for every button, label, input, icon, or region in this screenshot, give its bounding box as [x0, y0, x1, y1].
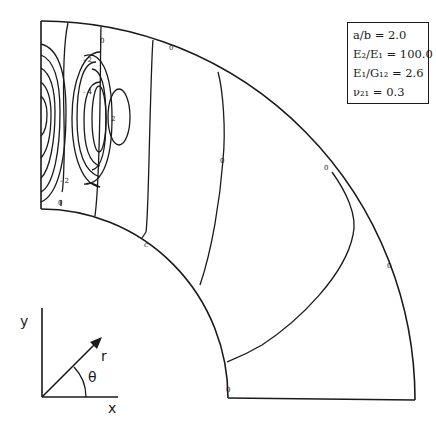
y-axis-label: y — [20, 313, 28, 329]
contour-zero-3 — [200, 72, 224, 285]
contour-zero-left — [62, 23, 68, 192]
label-0-inner: c — [144, 241, 148, 249]
label-0-top2: 0 — [169, 44, 173, 52]
param-poisson-ratio: ν₂₁ = 0.3 — [353, 83, 424, 102]
param-modulus-ratio: E₂/E₁ = 100.0 — [353, 45, 424, 64]
label-neg2-top: - 2 — [83, 56, 92, 64]
theta-arc — [74, 367, 86, 397]
theta-label: θ — [88, 369, 97, 385]
contour-mid-neg2 — [77, 62, 100, 177]
contour-zero-2-tail — [142, 232, 146, 238]
label-pos2: 2 — [111, 115, 115, 123]
contour-left-4 — [41, 82, 51, 158]
bottom-edge — [228, 398, 415, 400]
label-0-mid: 0 — [220, 157, 224, 165]
contour-lines — [41, 23, 354, 362]
contour-zero-2 — [146, 40, 153, 232]
contour-zero-4 — [227, 172, 354, 362]
label-0-top1: 0 — [100, 37, 104, 45]
contour-mid-neg2-a — [72, 52, 100, 187]
x-axis-label: x — [108, 400, 116, 416]
label-0-right1: 0 — [324, 164, 328, 172]
label-neg2-bottom: - 2 — [60, 177, 69, 185]
coordinate-axes: y x r θ — [20, 308, 118, 416]
contour-zero-1 — [95, 27, 101, 216]
label-0-left: 0 — [58, 199, 62, 207]
contour-label-group: - 2 - 4 2 - 2 0 0 0 0 c 0 0 0 — [58, 37, 391, 394]
param-shear-ratio: E₁/G₁₂ = 2.6 — [353, 64, 424, 83]
parameter-legend-box: a/b = 2.0 E₂/E₁ = 100.0 E₁/G₁₂ = 2.6 ν₂₁… — [347, 22, 429, 104]
r-label: r — [101, 348, 107, 364]
label-neg4: - 4 — [83, 88, 93, 96]
label-0-right2: 0 — [387, 262, 391, 270]
param-aspect-ratio: a/b = 2.0 — [353, 26, 424, 45]
contour-left-5 — [41, 96, 47, 136]
label-0-bottom: 0 — [226, 386, 230, 394]
